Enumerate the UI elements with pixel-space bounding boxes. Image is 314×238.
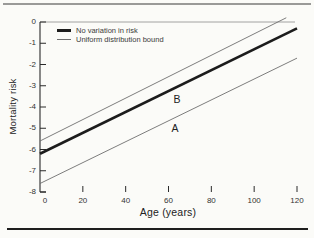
line-label-B: B — [174, 93, 181, 105]
y-tick-label: 0 — [14, 17, 36, 27]
chart-legend: No variation in risk Uniform distributio… — [57, 26, 164, 44]
x-axis-title: Age (years) — [108, 206, 228, 218]
y-tick-label: -3 — [14, 81, 36, 91]
x-tick-label: 40 — [111, 196, 141, 206]
x-tick-label: 100 — [239, 196, 269, 206]
y-tick-label: -5 — [14, 123, 36, 133]
line-label-A: A — [171, 122, 178, 134]
y-tick-label: -2 — [14, 60, 36, 70]
x-tick-label: 0 — [30, 196, 60, 206]
thick-line-swatch-icon — [57, 29, 71, 32]
legend-label: No variation in risk — [76, 26, 138, 35]
y-tick-label: -6 — [14, 145, 36, 155]
legend-label: Uniform distribution bound — [76, 35, 164, 44]
legend-item-no-variation: No variation in risk — [57, 26, 164, 35]
y-tick-label: -7 — [14, 166, 36, 176]
series-line-thick — [40, 28, 297, 153]
legend-item-uniform-bound: Uniform distribution bound — [57, 35, 164, 44]
x-tick-label: 20 — [68, 196, 98, 206]
x-tick-label: 60 — [154, 196, 184, 206]
y-tick-label: -4 — [14, 102, 36, 112]
thin-line-swatch-icon — [57, 39, 71, 40]
y-tick-label: -1 — [14, 38, 36, 48]
x-tick-label: 120 — [282, 196, 312, 206]
x-tick-label: 80 — [196, 196, 226, 206]
